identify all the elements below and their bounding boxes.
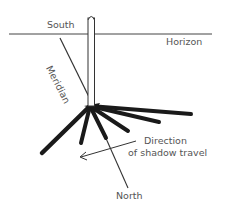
south-label: South xyxy=(47,20,75,30)
north-label: North xyxy=(116,191,143,201)
sundial-diagram xyxy=(0,0,225,215)
direction-label-line2: of shadow travel xyxy=(128,148,207,158)
stick-icon xyxy=(88,17,95,107)
direction-label-line1: Direction xyxy=(144,136,187,146)
horizon-label: Horizon xyxy=(166,37,202,47)
